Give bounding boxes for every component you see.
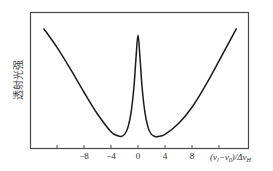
x-tick-label: 0	[136, 151, 141, 161]
y-axis-label: 透射光强	[12, 60, 24, 100]
x-tick-label: 4	[163, 151, 168, 161]
x-tick-label: −4	[106, 151, 116, 161]
x-axis-tick-labels: −8−4048	[79, 151, 195, 161]
x-axis-ticks	[57, 145, 219, 148]
line-chart: −8−4048 透射光强 (νl−ν0)/ΔνH	[0, 0, 273, 171]
x-tick-label: 8	[190, 151, 195, 161]
x-tick-label: −8	[79, 151, 89, 161]
x-axis-label: (νl−ν0)/ΔνH	[210, 152, 252, 163]
plot-frame	[31, 13, 249, 149]
data-line	[44, 28, 237, 136]
